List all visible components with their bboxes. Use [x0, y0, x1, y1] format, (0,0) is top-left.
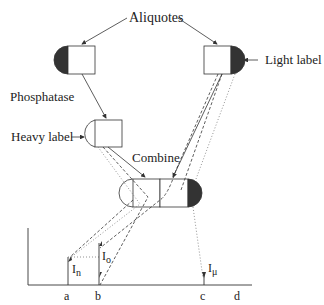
combine-label: Combine: [132, 150, 180, 165]
dotted-path-to-c: [193, 207, 203, 278]
aliquotes-arrow-right: [178, 18, 217, 44]
tick-c: c: [200, 289, 205, 303]
tick-a: a: [64, 289, 70, 303]
diagram-canvas: Aliquotes Light label Phosphatase Heavy …: [0, 0, 324, 305]
peak-n-label: In: [72, 262, 81, 278]
peak-o-label: Io: [102, 249, 111, 265]
aliquot-left-shape: [54, 46, 95, 74]
peak-mu-label: Iμ: [208, 261, 217, 277]
phosphatase-arrow: [82, 74, 106, 118]
aliquotes-label: Aliquotes: [129, 10, 183, 25]
dotted-path-right: [196, 74, 235, 179]
heavy-label-shape: [85, 120, 122, 147]
tick-d: d: [234, 289, 240, 303]
tick-b: b: [95, 289, 101, 303]
dashed-path-right-2: [181, 74, 222, 190]
peak-c-arrowhead: [202, 272, 206, 278]
aliquot-right-shape: [204, 46, 245, 74]
combined-shape: [119, 179, 202, 207]
combine-arrow-right: [173, 74, 222, 177]
phosphatase-label: Phosphatase: [10, 89, 75, 104]
aliquotes-arrow-left: [82, 18, 127, 44]
heavy-label-text: Heavy label: [11, 129, 74, 144]
light-label-text: Light label: [265, 52, 322, 67]
